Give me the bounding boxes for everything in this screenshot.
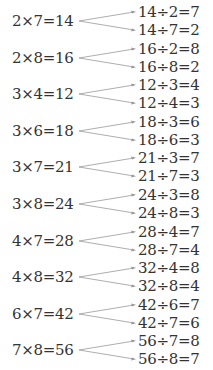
division-equation-2: 12÷4=3	[138, 94, 200, 112]
division-equation-2: 42÷7=6	[138, 314, 200, 332]
division-equation-2: 16÷8=2	[138, 58, 200, 76]
multiplication-equation: 3×6=18	[12, 122, 74, 140]
fact-family-group: 6×7=42 42÷6=7 42÷7=6	[0, 296, 213, 332]
fact-family-group: 3×7=21 21÷3=7 21÷7=3	[0, 149, 213, 185]
division-equation-1: 28÷4=7	[138, 223, 200, 241]
division-equation-1: 42÷6=7	[138, 296, 200, 314]
division-equation-2: 24÷8=3	[138, 204, 200, 222]
fact-family-group: 4×7=28 28÷4=7 28÷7=4	[0, 223, 213, 259]
multiplication-equation: 6×7=42	[12, 305, 74, 323]
fact-family-group: 3×6=18 18÷3=6 18÷6=3	[0, 113, 213, 149]
division-equation-2: 28÷7=4	[138, 241, 200, 259]
multiplication-equation: 3×4=12	[12, 85, 74, 103]
fact-family-group: 3×8=24 24÷3=8 24÷8=3	[0, 186, 213, 222]
division-equation-2: 21÷7=3	[138, 167, 200, 185]
division-equation-1: 14÷2=7	[138, 3, 200, 21]
fact-family-group: 4×8=32 32÷4=8 32÷8=4	[0, 259, 213, 295]
division-equation-2: 14÷7=2	[138, 21, 200, 39]
division-equation-1: 56÷7=8	[138, 332, 200, 350]
fact-family-group: 3×4=12 12÷3=4 12÷4=3	[0, 76, 213, 112]
division-equation-2: 18÷6=3	[138, 131, 200, 149]
division-equation-1: 21÷3=7	[138, 149, 200, 167]
fact-family-group: 2×8=16 16÷2=8 16÷8=2	[0, 40, 213, 76]
division-equation-1: 16÷2=8	[138, 40, 200, 58]
division-equation-1: 18÷3=6	[138, 113, 200, 131]
division-equation-1: 24÷3=8	[138, 186, 200, 204]
multiplication-equation: 3×7=21	[12, 158, 74, 176]
division-equation-2: 32÷8=4	[138, 277, 200, 295]
multiplication-equation: 2×8=16	[12, 49, 74, 67]
division-equation-1: 32÷4=8	[138, 259, 200, 277]
division-equation-1: 12÷3=4	[138, 76, 200, 94]
fact-family-group: 2×7=14 14÷2=7 14÷7=2	[0, 3, 213, 39]
multiplication-equation: 2×7=14	[12, 12, 74, 30]
fact-family-group: 7×8=56 56÷7=8 56÷8=7	[0, 332, 213, 368]
multiplication-equation: 3×8=24	[12, 195, 74, 213]
division-equation-2: 56÷8=7	[138, 350, 200, 368]
multiplication-equation: 7×8=56	[12, 341, 74, 359]
multiplication-equation: 4×8=32	[12, 268, 74, 286]
multiplication-equation: 4×7=28	[12, 232, 74, 250]
